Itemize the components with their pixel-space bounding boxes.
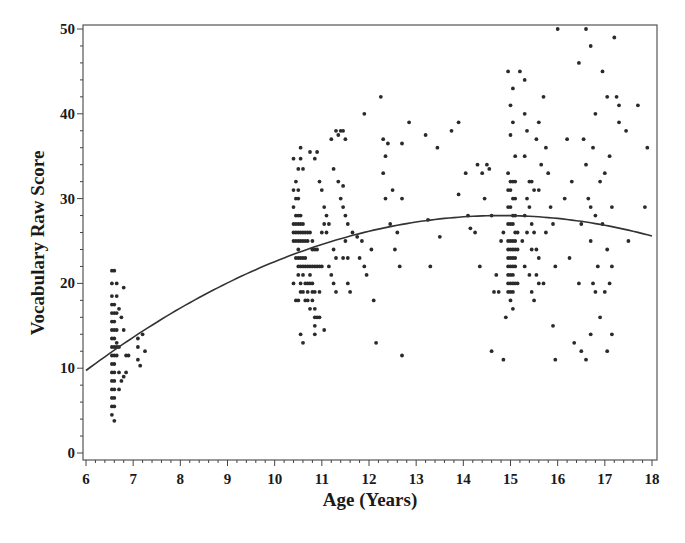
data-point [572,341,576,345]
data-point [296,299,300,303]
data-point [556,27,560,31]
data-point [511,87,515,91]
data-point [344,239,348,243]
x-axis-ticks: 6789101112131415161718 [82,460,659,487]
data-point [494,273,498,277]
data-point [605,248,609,252]
x-tick-label: 6 [82,471,90,487]
data-point [509,188,513,192]
data-point [469,226,473,230]
data-point [115,328,119,332]
data-point [301,167,305,171]
data-point [325,231,329,235]
data-point [608,154,612,158]
data-point [112,419,116,423]
data-point [563,197,567,201]
data-point [117,388,121,392]
data-point [395,231,399,235]
data-point [313,157,317,161]
data-point [627,239,631,243]
data-point [539,163,543,167]
data-point [318,180,322,184]
data-point [603,171,607,175]
data-point [525,231,529,235]
data-point [516,282,520,286]
data-point [313,324,317,328]
data-point [497,290,501,294]
data-point [511,290,515,294]
data-point [509,205,513,209]
data-point [292,157,296,161]
data-point [115,294,119,298]
data-point [577,61,581,65]
data-point [381,171,385,175]
data-point [320,265,324,269]
data-point [299,214,303,218]
data-point [332,248,336,252]
data-point [127,354,131,358]
data-point [450,129,454,133]
data-point [544,146,548,150]
data-point [370,248,374,252]
data-point [513,180,517,184]
data-point [112,303,116,307]
y-axis-title: Vocabulary Raw Score [27,151,48,336]
data-point [532,299,536,303]
data-point [120,315,124,319]
data-point [605,95,609,99]
data-point [115,341,119,345]
data-point [617,120,621,124]
data-point [490,349,494,353]
data-point [601,70,605,74]
data-point [292,188,296,192]
data-point [334,129,338,133]
data-point [525,197,529,201]
data-point [457,120,461,124]
data-point [294,180,298,184]
data-point [523,112,527,116]
data-point [391,188,395,192]
data-point [308,150,312,154]
data-point [306,299,310,303]
y-tick-label: 20 [60,275,75,291]
data-point [546,171,550,175]
data-point [565,137,569,141]
data-point [115,311,119,315]
quadratic-fit-curve [86,216,652,371]
data-point [594,290,598,294]
data-point [122,375,126,379]
data-point [584,163,588,167]
data-point [582,137,586,141]
data-point [318,290,322,294]
data-point [589,332,593,336]
x-tick-label: 11 [315,471,329,487]
data-point [594,112,598,116]
data-point [320,188,324,192]
data-point [301,341,305,345]
data-point [315,150,319,154]
data-point [112,388,116,392]
data-point [591,146,595,150]
data-point [553,358,557,362]
data-point [487,167,491,171]
data-point [520,239,524,243]
data-point [603,290,607,294]
data-point [110,282,114,286]
data-point [610,332,614,336]
data-point [528,273,532,277]
data-point [313,307,317,311]
data-point [332,167,336,171]
data-point [292,282,296,286]
data-point [112,405,116,409]
data-point [299,146,303,150]
data-point [506,70,510,74]
data-point [407,120,411,124]
data-point [480,171,484,175]
data-point [296,273,300,277]
data-point [374,341,378,345]
data-point [645,146,649,150]
data-point [535,137,539,141]
data-point [511,273,515,277]
data-point [506,171,510,175]
data-point [117,307,121,311]
